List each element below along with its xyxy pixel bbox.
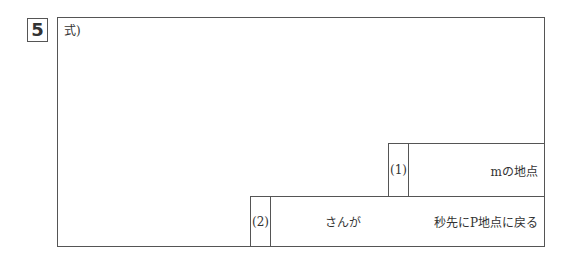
formula-label: 式) (64, 21, 81, 38)
answer-1-unit: mの地点 (491, 162, 538, 179)
answer-2-field[interactable]: さんが 秒先にP地点に戻る (270, 196, 545, 247)
answer-1-field[interactable]: mの地点 (408, 143, 545, 197)
answer-2-end: 秒先にP地点に戻る (434, 213, 538, 230)
answer-1-label: (1) (388, 143, 409, 197)
answer-2-middle: さんが (325, 213, 361, 230)
answer-2-label: (2) (250, 196, 271, 247)
question-number: 5 (27, 18, 48, 42)
